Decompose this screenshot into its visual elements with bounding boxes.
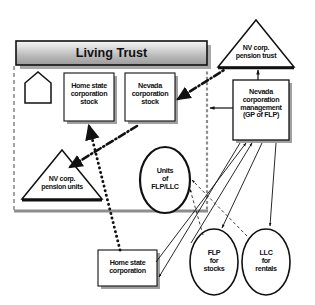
edge-nevada-stock-to-pension-units: [70, 126, 137, 167]
flp-for-stocks-node[interactable]: [190, 229, 238, 295]
edge-flp-to-management: [191, 143, 252, 243]
nv-corp-pension-units-node[interactable]: [22, 150, 102, 200]
edge-management-to-llc: [270, 143, 276, 226]
edge-management-to-flp: [222, 143, 262, 228]
house-icon: [25, 72, 51, 103]
nv-corp-pension-trust-node[interactable]: [218, 20, 294, 68]
nevada-corp-management-node[interactable]: [233, 80, 292, 143]
home-state-corp-stock-node[interactable]: [64, 73, 117, 124]
home-state-corporation-node[interactable]: [98, 250, 160, 289]
llc-for-rentals-node[interactable]: [242, 229, 290, 295]
living-trust-banner: [16, 41, 207, 65]
diagram-svg: [0, 0, 315, 305]
diagram-canvas: Living Trust Home state corporation stoc…: [0, 0, 315, 305]
edge-nevada-stock-to-pension-trust: [178, 70, 224, 99]
units-flp-llc-node[interactable]: [140, 147, 190, 213]
nevada-corp-stock-node[interactable]: [125, 73, 178, 124]
